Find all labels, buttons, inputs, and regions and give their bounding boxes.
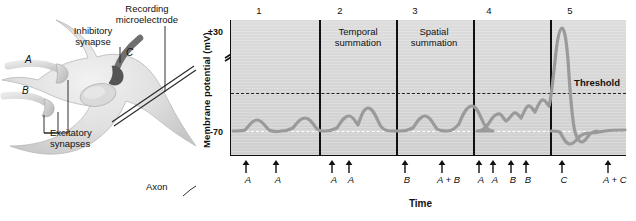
stimulus-label: C: [557, 174, 571, 185]
axon-label: Axon: [146, 182, 168, 193]
stimulus-arrow-icon: [344, 160, 354, 173]
stimulus-marker-5a: C: [557, 160, 571, 185]
y-tick-top: +30: [197, 27, 223, 37]
stimulus-marker-4c: B: [506, 160, 520, 185]
stimulus-arrow-icon: [506, 160, 516, 173]
stimulus-marker-4a: A: [474, 160, 488, 185]
stimulus-marker-4d: B: [521, 160, 535, 185]
stimulus-marker-1a: A: [241, 160, 255, 185]
stimulus-label: B: [521, 174, 535, 185]
stimulus-marker-2b: A: [344, 160, 358, 185]
input-a-label: A: [25, 55, 32, 66]
panel-number-5: 5: [550, 5, 590, 16]
plot-area: Temporal summation Spatial summation Thr…: [230, 20, 626, 156]
stimulus-arrow-icon: [603, 160, 613, 173]
stimulus-marker-3b: A + B: [437, 160, 451, 185]
stimulus-arrow-icon: [488, 160, 498, 173]
stimulus-label: A + C: [603, 174, 617, 185]
membrane-potential-chart: Membrane potential (mV) +30 -70 1 2 3 4 …: [205, 0, 636, 221]
y-tick-bottom: -70: [197, 127, 223, 137]
stimulus-label: A: [327, 174, 341, 185]
stimulus-arrow-icon: [437, 160, 447, 173]
panel-number-1: 1: [239, 5, 279, 16]
stimulus-marker-5b: A + C: [603, 160, 617, 185]
excitatory-synapses-label: Excitatory synapses: [50, 128, 92, 149]
stimulus-marker-3a: B: [400, 160, 414, 185]
stimulus-arrow-icon: [327, 160, 337, 173]
stimulus-label: A: [474, 174, 488, 185]
input-c-label: C: [126, 48, 133, 59]
stimulus-arrow-icon: [557, 160, 567, 173]
stimulus-arrow-icon: [400, 160, 410, 173]
inhibitory-synapse-label: Inhibitory synapse: [62, 26, 124, 47]
membrane-potential-trace: [231, 20, 627, 156]
neuron-diagram: Recording microelectrode Inhibitory syna…: [0, 0, 205, 221]
stimulus-label: B: [400, 174, 414, 185]
stimulus-marker-4b: A: [488, 160, 502, 185]
stimulus-label: B: [506, 174, 520, 185]
x-axis-label: Time: [205, 198, 636, 209]
stimulus-arrow-icon: [271, 160, 281, 173]
panel-number-2: 2: [320, 5, 360, 16]
stimulus-marker-2a: A: [327, 160, 341, 185]
panel-number-3: 3: [395, 5, 435, 16]
stimulus-arrow-icon: [241, 160, 251, 173]
stimulus-arrow-icon: [474, 160, 484, 173]
stimulus-label: A: [241, 174, 255, 185]
panel-number-4: 4: [469, 5, 509, 16]
threshold-label: Threshold: [574, 77, 620, 88]
recording-microelectrode-label: Recording microelectrode: [104, 4, 190, 25]
stimulus-label: A: [344, 174, 358, 185]
stimulus-label: A + B: [437, 174, 451, 185]
stimulus-marker-1b: A: [271, 160, 285, 185]
stimulus-arrow-icon: [521, 160, 531, 173]
stimulus-label: A: [488, 174, 502, 185]
presynaptic-fiber-b: [4, 95, 54, 116]
stimulus-label: A: [271, 174, 285, 185]
input-b-label: B: [22, 86, 29, 97]
figure-root: Recording microelectrode Inhibitory syna…: [0, 0, 636, 221]
